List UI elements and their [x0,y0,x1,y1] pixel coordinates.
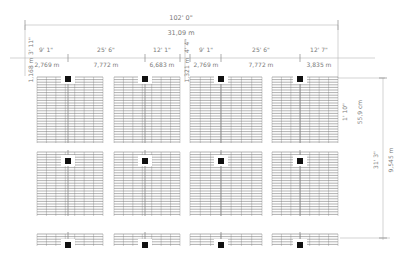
plan-drawing: 102' 0" 31,09 m 9' 1" 2,769 m 25' 6" 7,7… [0,0,414,260]
seating-bay [190,232,262,250]
middle-vertical-metric: 1,321 m [183,57,190,82]
column-icon [142,76,148,82]
column-icon [297,158,303,164]
seg4-metric: 2,769 m [194,61,219,68]
seg3-imperial: 12' 1" [153,46,171,53]
seg5-metric: 7,772 m [249,61,274,68]
column-icon [297,76,303,82]
right-vertical-dimensions: 1' 10" 55,9 cm 31' 3" 9,545 m [338,78,394,240]
right-small-imperial: 1' 10" [341,103,348,121]
column-icon [218,76,224,82]
left-vertical-metric: 1,168 m [27,57,34,82]
seg4-imperial: 9' 1" [199,46,213,53]
left-vertical-dimension: 3' 11" 1,168 m [27,37,34,83]
column-icon [142,158,148,164]
seating-bay [272,73,338,143]
overall-dimension: 102' 0" 31,09 m [25,14,338,37]
seg3-metric: 6,683 m [150,61,175,68]
column-icon [142,242,148,248]
right-large-imperial: 31' 3" [372,151,379,169]
column-icon [65,242,71,248]
seating-bay [37,150,103,216]
seating-bay [272,150,338,216]
seg1-metric: 2,769 m [35,61,60,68]
column-icon [65,76,71,82]
column-icon [218,242,224,248]
seg6-imperial: 12' 7" [310,46,328,53]
seg1-imperial: 9' 1" [39,46,53,53]
left-vertical-imperial: 3' 11" [27,37,34,55]
middle-vertical-imperial: 4' 4" [183,39,190,53]
seating-bays [37,73,338,250]
seg6-metric: 3,835 m [307,61,332,68]
column-icon [297,242,303,248]
middle-vertical-dimension: 4' 4" 1,321 m [183,39,190,83]
overall-imperial: 102' 0" [169,14,192,22]
right-small-metric: 55,9 cm [356,100,363,125]
floor-plan-diagram: 102' 0" 31,09 m 9' 1" 2,769 m 25' 6" 7,7… [0,0,414,260]
seg2-metric: 7,772 m [94,61,119,68]
column-icon [218,158,224,164]
seating-bay [272,232,338,250]
seating-bay [190,150,262,216]
right-large-metric: 9,545 m [387,147,394,172]
seg2-imperial: 25' 6" [97,46,115,53]
seating-bay [114,150,180,216]
seating-bay [37,232,103,250]
seg5-imperial: 25' 6" [252,46,270,53]
seating-bay [37,73,103,143]
column-icon [65,158,71,164]
seating-bay [114,73,180,143]
overall-metric: 31,09 m [167,29,194,37]
seating-bay [190,73,262,143]
seating-bay [114,232,180,250]
